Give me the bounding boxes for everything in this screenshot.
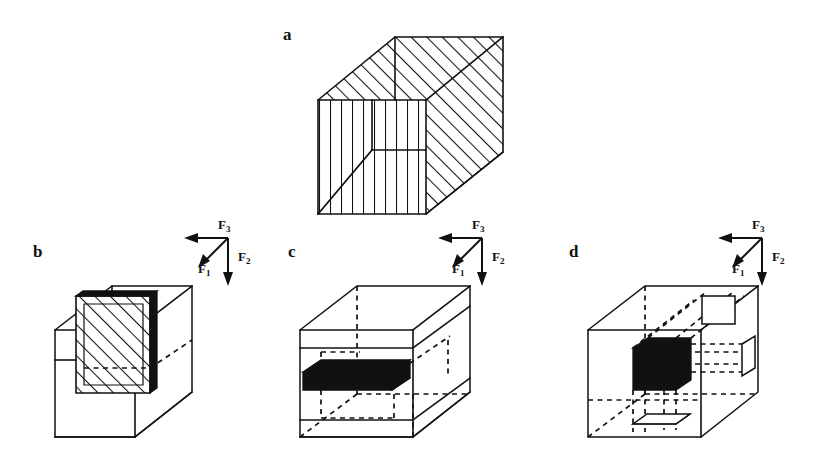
force-triad-c (438, 233, 487, 286)
force-subscript: 3 (480, 224, 485, 234)
force-subscript: 2 (500, 256, 505, 266)
force-subscript: 1 (460, 268, 465, 278)
force-label-b-f2: F2 (238, 250, 250, 263)
force-triad-d (718, 233, 767, 286)
panel-d-cube (588, 286, 758, 437)
panel-label-c: c (288, 243, 296, 260)
panel-label-b: b (33, 243, 42, 260)
figure-vector-canvas (0, 0, 824, 470)
force-label-c-f1: F1 (452, 262, 464, 275)
force-label-c-f3: F3 (472, 218, 484, 231)
panel-d-top-projection-square (702, 296, 735, 324)
force-subscript: 2 (246, 256, 251, 266)
force-label-b-f3: F3 (218, 218, 230, 231)
panel-label-d: d (569, 243, 578, 260)
force-subscript: 1 (206, 268, 211, 278)
force-subscript: 1 (740, 268, 745, 278)
force-symbol: F (472, 217, 480, 232)
panel-a-front-face-hatch (314, 96, 432, 218)
force-symbol: F (752, 217, 760, 232)
panel-d-side-projection-square (742, 336, 755, 376)
force-label-d-f2: F2 (772, 250, 784, 263)
force-subscript: 3 (760, 224, 765, 234)
force-symbol: F (198, 261, 206, 276)
panel-b-cube (55, 286, 192, 437)
force-symbol: F (772, 249, 780, 264)
panel-c-cube (300, 286, 470, 437)
force-symbol: F (238, 249, 246, 264)
force-symbol: F (218, 217, 226, 232)
panel-a-cube (310, 30, 520, 225)
force-label-d-f3: F3 (752, 218, 764, 231)
force-symbol: F (452, 261, 460, 276)
force-symbol: F (732, 261, 740, 276)
figure-root: a b c d F1 F2 F3 F1 F2 F3 F1 F2 F3 (0, 0, 824, 470)
force-symbol: F (492, 249, 500, 264)
panel-c-black-slab (303, 360, 410, 390)
force-label-b-f1: F1 (198, 262, 210, 275)
panel-d-black-cube (633, 338, 691, 390)
force-subscript: 3 (226, 224, 231, 234)
panel-b-internal-hatched-plane (76, 291, 157, 393)
panel-label-a: a (283, 26, 292, 43)
force-label-d-f1: F1 (732, 262, 744, 275)
force-subscript: 2 (780, 256, 785, 266)
force-label-c-f2: F2 (492, 250, 504, 263)
force-triad-b (184, 233, 233, 286)
